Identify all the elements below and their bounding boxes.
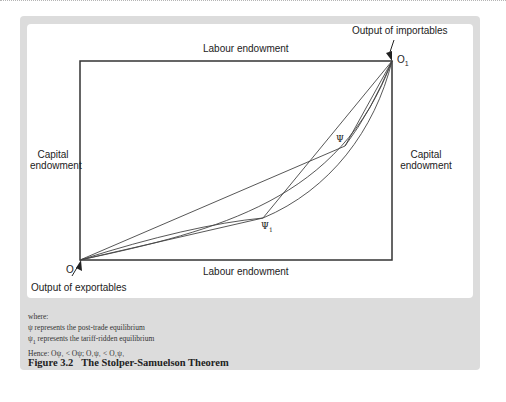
origin-o1-label: O1 [397,54,409,67]
psi1-point-label: Ψ1 [261,221,273,233]
top-axis-label: Labour endowment [203,43,289,54]
figure-caption: Figure 3.2The Stolper-Samuelson Theorem [28,357,229,368]
output-exportables-label: Output of exportables [31,282,127,293]
output-importables-label: Output of importables [352,25,448,36]
ray-o1-to-psi [345,61,392,146]
edgeworth-box [80,61,392,260]
arrow-exportables-head [76,260,82,271]
right-axis-label: Capital endowment [396,149,456,171]
contract-curve [80,61,392,260]
figure-notes: where: ψ represents the post-trade equil… [28,311,154,359]
origin-o-label: O [66,264,74,275]
ray-o-to-psi [80,146,345,260]
psi-point-label: Ψ [336,134,344,144]
bottom-axis-label: Labour endowment [203,266,289,277]
arrow-importables-head [386,51,392,61]
ray-o1-to-psi1 [263,61,392,218]
ray-o-to-psi1 [80,218,263,260]
left-axis-label: Capital endowment [30,149,76,171]
